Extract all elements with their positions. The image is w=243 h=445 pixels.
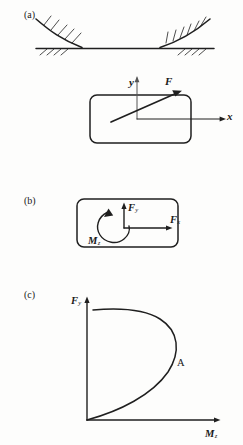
ground-hatch-right bbox=[178, 49, 206, 55]
curve-point-label-a: A bbox=[177, 358, 185, 369]
interaction-curve-c bbox=[87, 309, 176, 420]
axis-x-label-c: Mz bbox=[205, 424, 217, 440]
axis-y-subscript-c: y bbox=[78, 299, 81, 306]
panel-tag-a: (a) bbox=[24, 10, 35, 20]
force-x-arrowhead-b bbox=[166, 225, 173, 230]
panel-tag-b: (b) bbox=[24, 196, 36, 206]
force-y-subscript-b: y bbox=[135, 206, 138, 213]
force-arrow-a bbox=[111, 93, 178, 123]
axis-x-label-a: x bbox=[227, 111, 233, 122]
moment-subscript-b: z bbox=[97, 239, 100, 246]
panel-tag-c: (c) bbox=[24, 290, 35, 300]
axis-x-symbol-c: M bbox=[205, 428, 214, 439]
moment-symbol-b: M bbox=[88, 235, 97, 246]
figure-artwork bbox=[0, 0, 243, 445]
force-x-label-b: Fx bbox=[170, 210, 180, 226]
support-hatch-right bbox=[166, 17, 206, 43]
force-y-symbol-b: F bbox=[128, 202, 135, 213]
force-label-a: F bbox=[165, 76, 172, 87]
moment-label-b: Mz bbox=[88, 231, 100, 247]
ground-hatch-left bbox=[40, 49, 68, 55]
force-x-symbol-b: F bbox=[170, 214, 177, 225]
axis-y-arrowhead-c bbox=[84, 297, 89, 304]
axis-x-arrowhead-a bbox=[220, 117, 226, 122]
force-x-subscript-b: x bbox=[177, 218, 180, 225]
support-curve-left bbox=[36, 19, 82, 48]
axis-y-label-c: Fy bbox=[71, 291, 81, 307]
force-y-arrowhead-b bbox=[121, 203, 126, 210]
axis-y-arrowhead-a bbox=[135, 76, 140, 82]
axis-x-subscript-c: z bbox=[214, 432, 217, 439]
axis-y-symbol-c: F bbox=[71, 295, 78, 306]
figure-root: (a) y F x (b) Fy Fx Mz (c) Fy Mz A bbox=[0, 0, 243, 445]
force-y-label-b: Fy bbox=[128, 198, 138, 214]
axis-x-arrowhead-c bbox=[214, 417, 221, 422]
axis-y-label-a: y bbox=[129, 77, 134, 88]
